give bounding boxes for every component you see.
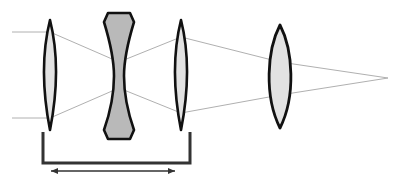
- optical-diagram-canvas: [0, 0, 410, 180]
- diagram-background: [0, 0, 410, 180]
- optical-ray-diagram: [0, 0, 410, 180]
